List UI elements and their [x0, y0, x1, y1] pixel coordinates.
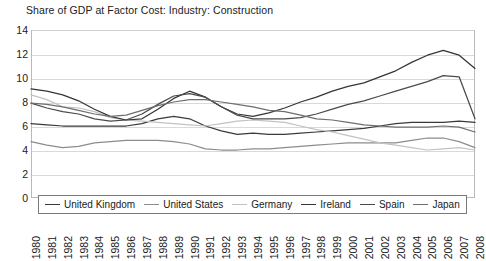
x-tick-text: 2007 — [459, 236, 470, 259]
series-line-ireland — [31, 50, 475, 120]
legend-item-united-states[interactable]: United States — [144, 199, 223, 210]
legend-label: Japan — [432, 199, 459, 210]
legend-item-germany[interactable]: Germany — [232, 199, 292, 210]
chart-title: Share of GDP at Factor Cost: Industry: C… — [26, 4, 273, 16]
x-tick-text: 1999 — [332, 236, 343, 259]
x-tick-text: 1987 — [142, 236, 153, 259]
x-tick-text: 2002 — [380, 236, 391, 259]
legend-swatch-icon — [413, 204, 428, 205]
x-tick-text: 1996 — [285, 236, 296, 259]
x-tick-text: 2008 — [475, 236, 486, 259]
x-tick-text: 2005 — [427, 236, 438, 259]
y-tick-label: 12 — [6, 48, 28, 60]
legend-swatch-icon — [144, 204, 159, 205]
legend-label: United Kingdom — [64, 199, 135, 210]
x-tick-text: 1980 — [31, 236, 42, 259]
x-tick-text: 1998 — [316, 236, 327, 259]
x-tick-text: 1981 — [47, 236, 58, 259]
legend-swatch-icon — [45, 204, 60, 205]
x-tick-text: 2006 — [443, 236, 454, 259]
y-tick-label: 6 — [6, 120, 28, 132]
legend-label: Ireland — [320, 199, 351, 210]
x-tick-text: 1993 — [237, 236, 248, 259]
legend-item-spain[interactable]: Spain — [360, 199, 405, 210]
x-tick-text: 1991 — [205, 236, 216, 259]
x-tick-text: 1997 — [301, 236, 312, 259]
legend-label: United States — [163, 199, 223, 210]
x-tick-text: 1986 — [126, 236, 137, 259]
x-tick-text: 2000 — [348, 236, 359, 259]
x-tick-text: 1989 — [174, 236, 185, 259]
x-tick-text: 1988 — [158, 236, 169, 259]
x-tick-text: 1982 — [63, 236, 74, 259]
x-tick-text: 1992 — [221, 236, 232, 259]
legend-label: Spain — [379, 199, 405, 210]
y-tick-label: 8 — [6, 96, 28, 108]
x-tick-text: 1994 — [253, 236, 264, 259]
y-tick-label: 0 — [6, 192, 28, 204]
x-tick-text: 1984 — [94, 236, 105, 259]
x-tick-text: 2004 — [412, 236, 423, 259]
legend-item-ireland[interactable]: Ireland — [301, 199, 351, 210]
chart-legend: United KingdomUnited StatesGermanyIrelan… — [38, 195, 467, 214]
y-tick-label: 2 — [6, 168, 28, 180]
x-tick-text: 2001 — [364, 236, 375, 259]
x-tick-text: 2003 — [396, 236, 407, 259]
legend-swatch-icon — [232, 204, 247, 205]
y-tick-label: 14 — [6, 24, 28, 36]
y-tick-label: 10 — [6, 72, 28, 84]
y-axis: 02468101214 — [0, 30, 28, 198]
legend-item-japan[interactable]: Japan — [413, 199, 459, 210]
legend-item-united-kingdom[interactable]: United Kingdom — [45, 199, 135, 210]
legend-label: Germany — [251, 199, 292, 210]
x-tick-text: 1990 — [190, 236, 201, 259]
series-lines — [31, 30, 475, 198]
legend-swatch-icon — [301, 204, 316, 205]
x-tick-text: 1985 — [110, 236, 121, 259]
x-tick-text: 1983 — [79, 236, 90, 259]
legend-swatch-icon — [360, 204, 375, 205]
y-tick-label: 4 — [6, 144, 28, 156]
x-tick-text: 1995 — [269, 236, 280, 259]
series-line-united-states — [31, 138, 475, 150]
